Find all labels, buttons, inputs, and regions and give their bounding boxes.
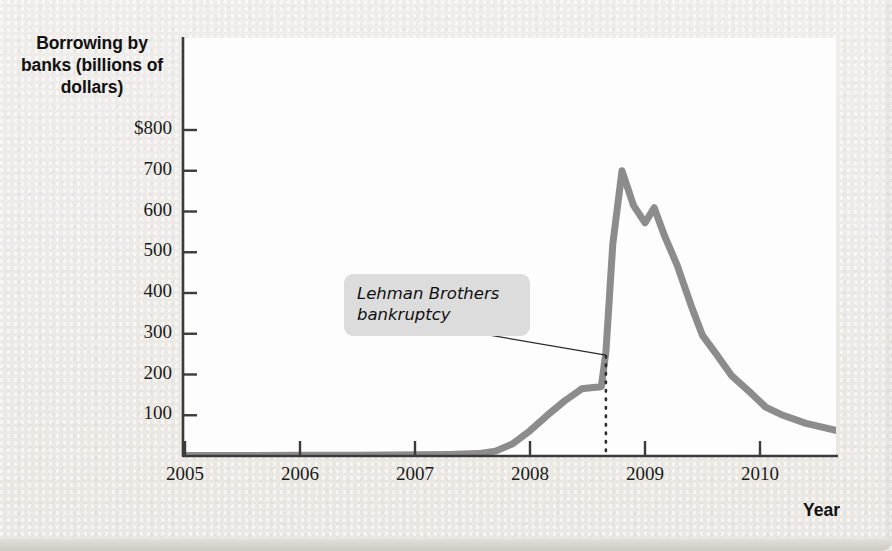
x-tick-label-2007: 2007 — [396, 463, 434, 485]
annotation-callout-lehman: Lehman Brothers bankruptcy — [344, 274, 530, 336]
x-tick-label-2006: 2006 — [281, 463, 319, 485]
x-tick-label-2010: 2010 — [741, 463, 779, 485]
x-axis-title: Year — [803, 500, 840, 521]
x-tick-label-2005: 2005 — [166, 463, 204, 485]
panel-bottom-edge — [0, 539, 892, 551]
x-tick-label-2008: 2008 — [511, 463, 549, 485]
x-tick-label-2009: 2009 — [626, 463, 664, 485]
panel-right-edge — [882, 0, 892, 551]
annotation-callout-text: Lehman Brothers bankruptcy — [357, 283, 518, 325]
figure-panel: Borrowing by banks (billions of dollars)… — [0, 0, 892, 551]
